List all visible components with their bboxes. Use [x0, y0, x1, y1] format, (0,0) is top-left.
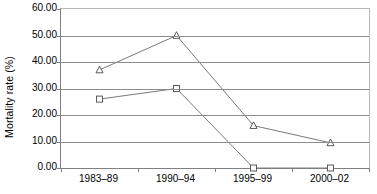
data-point-marker-square — [328, 165, 334, 171]
x-axis-tick-label: 2000–02 — [310, 173, 349, 185]
data-point-marker-square — [97, 96, 103, 102]
y-axis-tick-label: 10.00 — [17, 136, 57, 146]
x-axis-tick-label: 1995–99 — [233, 173, 272, 185]
data-point-marker-triangle — [96, 66, 103, 73]
gridline — [61, 115, 369, 116]
y-axis-tick-label: 40.00 — [17, 56, 57, 66]
y-axis-tick-label: 0.00 — [17, 162, 57, 172]
gridline — [61, 62, 369, 63]
x-axis-tick-mark — [138, 168, 139, 172]
x-axis-tick-mark — [215, 168, 216, 172]
x-axis-tick-mark — [292, 168, 293, 172]
y-axis-tick-label: 60.00 — [17, 3, 57, 13]
line-chart: Mortality rate (%) 0.0010.0020.0030.0040… — [0, 0, 377, 194]
y-axis-tick-label: 50.00 — [17, 30, 57, 40]
gridline — [61, 142, 369, 143]
data-point-marker-square — [251, 165, 257, 171]
x-axis-tick-mark — [369, 168, 370, 172]
plot-area — [60, 8, 370, 169]
y-axis-title: Mortality rate (%) — [0, 0, 18, 194]
gridline — [61, 36, 369, 37]
y-axis-tick-labels: 0.0010.0020.0030.0040.0050.0060.00 — [17, 0, 57, 194]
x-axis-tick-labels: 1983–891990–941995–992000–02 — [60, 173, 368, 189]
y-axis-tick-label: 20.00 — [17, 109, 57, 119]
x-axis-tick-label: 1983–89 — [79, 173, 118, 185]
x-axis-tick-label: 1990–94 — [156, 173, 195, 185]
y-axis-tick-mark — [57, 9, 61, 10]
series-line-square — [100, 89, 331, 169]
y-axis-tick-label: 30.00 — [17, 83, 57, 93]
gridline — [61, 89, 369, 90]
x-axis-tick-mark — [61, 168, 62, 172]
